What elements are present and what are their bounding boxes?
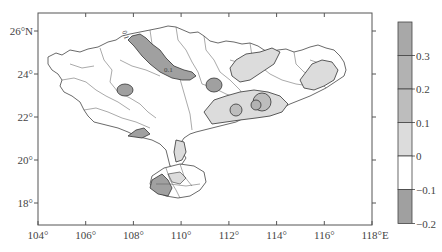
colorbar-label: 0.3 — [416, 50, 430, 62]
colorbar — [398, 22, 415, 224]
x-tick-label: 108° — [123, 229, 144, 241]
x-tick-label: 118°E — [361, 229, 388, 241]
y-tick-label: 24° — [18, 68, 33, 80]
x-tick-label: 112° — [219, 229, 240, 241]
colorbar-label: 0.2 — [416, 83, 430, 95]
x-tick-label: 104° — [28, 229, 49, 241]
y-tick-label: 18° — [18, 197, 33, 209]
map-figure — [0, 0, 442, 252]
y-tick-label: 20° — [18, 154, 33, 166]
x-tick-label: 114° — [266, 229, 287, 241]
colorbar-label: 0.1 — [416, 117, 430, 129]
x-tick-label: 116° — [314, 229, 335, 241]
y-tick-label: 22° — [18, 111, 33, 123]
colorbar-label: −0.2 — [416, 218, 436, 230]
colorbar-label: 0 — [416, 150, 422, 162]
colorbar-label: −0.1 — [416, 184, 436, 196]
contour-label: 0.1 — [164, 66, 173, 74]
y-tick-label: 26°N — [10, 25, 33, 37]
x-tick-label: 106° — [75, 229, 96, 241]
x-tick-label: 110° — [171, 229, 192, 241]
